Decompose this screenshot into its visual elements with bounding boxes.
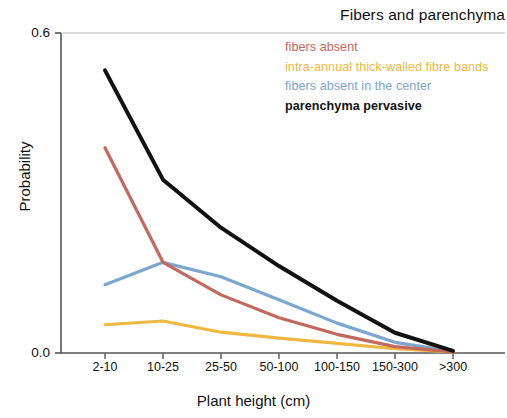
chart-plot-area	[0, 0, 507, 418]
chart-figure: Fibers and parenchyma fibers absent intr…	[0, 0, 507, 418]
x-axis-tick-label: >300	[439, 360, 467, 374]
x-axis-tick-label: 2-10	[92, 360, 117, 374]
series-line	[105, 70, 453, 351]
x-axis-tick-label: 150-300	[372, 360, 418, 374]
x-axis-tick-label: 10-25	[147, 360, 179, 374]
x-axis-tick-label: 25-50	[205, 360, 237, 374]
x-axis-tick-label: 50-100	[260, 360, 299, 374]
x-axis-tick-label: 100-150	[314, 360, 360, 374]
